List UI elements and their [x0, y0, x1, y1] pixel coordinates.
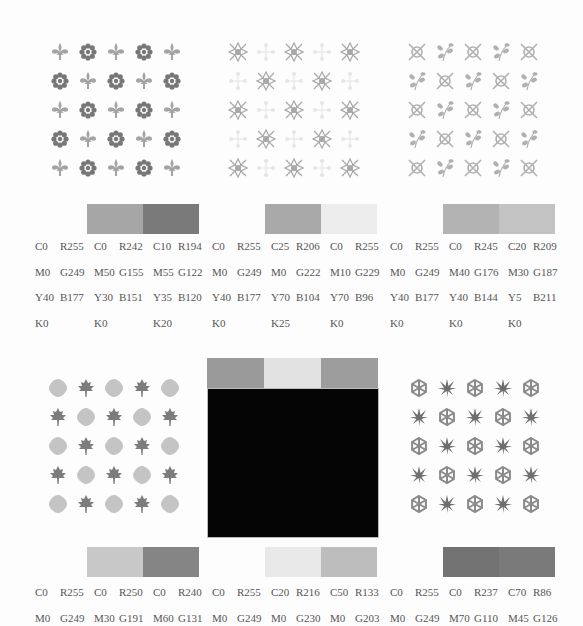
- rgb-r: R209: [533, 234, 567, 260]
- maple-leaf-icon: [100, 461, 128, 489]
- japanese-maple-icon: [489, 374, 517, 402]
- flower-rosette-icon: [102, 125, 130, 153]
- leaf-sprig-icon: [431, 154, 459, 182]
- ornate-tile-icon: [336, 96, 364, 124]
- row-c-r: C0R255 C20R216 C50R133: [212, 580, 389, 606]
- snowflake-icon: [517, 490, 545, 518]
- maple-leaf-icon: [156, 403, 184, 431]
- flower-rosette-icon: [130, 154, 158, 182]
- flower-rosette-icon: [74, 38, 102, 66]
- leaf-sprig-icon: [403, 125, 431, 153]
- row-m-g: M0G249 M50G155 M55G122: [35, 260, 212, 286]
- cmyk-c: C0: [449, 234, 474, 260]
- round-blossom-icon: [156, 432, 184, 460]
- snowflake-icon: [461, 490, 489, 518]
- dotted-cross-icon: [336, 67, 364, 95]
- pattern-grid-snowflake-leaf: [405, 374, 545, 518]
- cmyk-m: M0: [35, 260, 60, 286]
- rgb-b: B151: [119, 285, 153, 311]
- japanese-maple-icon: [461, 461, 489, 489]
- fleur-de-lis-icon: [158, 38, 186, 66]
- swatch-3: [321, 358, 378, 388]
- cmyk-c: C0: [390, 234, 415, 260]
- cmyk-c: C25: [271, 234, 296, 260]
- cmyk-m: M0: [212, 606, 237, 626]
- rgb-r: R250: [119, 580, 153, 606]
- row-m-g: M0G249 M70G110 M45G126: [390, 606, 567, 626]
- swatch-2: [143, 547, 199, 577]
- snowflake-icon: [405, 490, 433, 518]
- flower-rosette-icon: [46, 125, 74, 153]
- cmyk-c: C0: [390, 580, 415, 606]
- rgb-g: G203: [355, 606, 389, 626]
- japanese-maple-icon: [517, 403, 545, 431]
- maple-leaf-icon: [100, 403, 128, 431]
- leaf-sprig-icon: [487, 38, 515, 66]
- dotted-cross-icon: [308, 96, 336, 124]
- row-k: K0 K25 K0: [212, 311, 389, 337]
- maple-leaf-icon: [128, 490, 156, 518]
- snowflake-icon: [433, 461, 461, 489]
- flower-rosette-icon: [74, 96, 102, 124]
- cmyk-c: C70: [508, 580, 533, 606]
- japanese-maple-icon: [433, 432, 461, 460]
- dotted-cross-icon: [308, 154, 336, 182]
- rgb-b: B120: [178, 285, 212, 311]
- cmyk-m: M0: [390, 260, 415, 286]
- fleur-de-lis-icon: [102, 96, 130, 124]
- cmyk-m: M60: [153, 606, 178, 626]
- rgb-g: G230: [296, 606, 330, 626]
- cmyk-m: M0: [330, 606, 355, 626]
- color-codes-crossed-sprig: C0R255 C0R245 C20R209 M0G249 M40G176 M30…: [390, 234, 567, 336]
- fleur-de-lis-icon: [158, 96, 186, 124]
- fleur-de-lis-icon: [158, 154, 186, 182]
- rgb-r: R242: [119, 234, 153, 260]
- crossed-circle-icon: [459, 38, 487, 66]
- dotted-cross-icon: [252, 154, 280, 182]
- pattern-grid-crossed-sprig: [403, 38, 543, 182]
- round-blossom-icon: [44, 432, 72, 460]
- dotted-cross-icon: [252, 96, 280, 124]
- japanese-maple-icon: [433, 490, 461, 518]
- cmyk-k: K0: [94, 311, 119, 337]
- round-blossom-icon: [44, 374, 72, 402]
- cmyk-c: C0: [212, 580, 237, 606]
- cmyk-c: C0: [330, 234, 355, 260]
- fleur-de-lis-icon: [130, 125, 158, 153]
- cmyk-c: C0: [94, 580, 119, 606]
- ornate-tile-icon: [224, 96, 252, 124]
- cmyk-y: Y5: [508, 285, 533, 311]
- swatch-2: [321, 204, 377, 234]
- round-blossom-icon: [128, 403, 156, 431]
- ornate-tile-icon: [252, 125, 280, 153]
- flower-rosette-icon: [46, 67, 74, 95]
- rgb-g: G249: [237, 260, 271, 286]
- rgb-g: G249: [237, 606, 271, 626]
- round-blossom-icon: [44, 490, 72, 518]
- swatch-1: [443, 204, 499, 234]
- cmyk-c: C20: [271, 580, 296, 606]
- cmyk-k: K0: [212, 311, 237, 337]
- swatch-bar-ornate-cross: [265, 204, 377, 234]
- snowflake-icon: [405, 432, 433, 460]
- black-pattern-block: [207, 388, 379, 538]
- crossed-circle-icon: [403, 154, 431, 182]
- ornate-tile-icon: [280, 96, 308, 124]
- ornate-tile-icon: [224, 154, 252, 182]
- rgb-g: G126: [533, 606, 567, 626]
- ornate-tile-icon: [280, 38, 308, 66]
- flower-rosette-icon: [130, 38, 158, 66]
- fleur-de-lis-icon: [102, 38, 130, 66]
- rgb-g: G176: [474, 260, 508, 286]
- cmyk-y: Y40: [212, 285, 237, 311]
- rgb-b: B211: [533, 285, 567, 311]
- rgb-r: R216: [296, 580, 330, 606]
- round-blossom-icon: [100, 432, 128, 460]
- leaf-sprig-icon: [459, 67, 487, 95]
- dotted-cross-icon: [308, 38, 336, 66]
- cmyk-m: M30: [94, 606, 119, 626]
- fleur-de-lis-icon: [46, 154, 74, 182]
- round-blossom-icon: [72, 403, 100, 431]
- ornate-tile-icon: [252, 67, 280, 95]
- fleur-de-lis-icon: [130, 67, 158, 95]
